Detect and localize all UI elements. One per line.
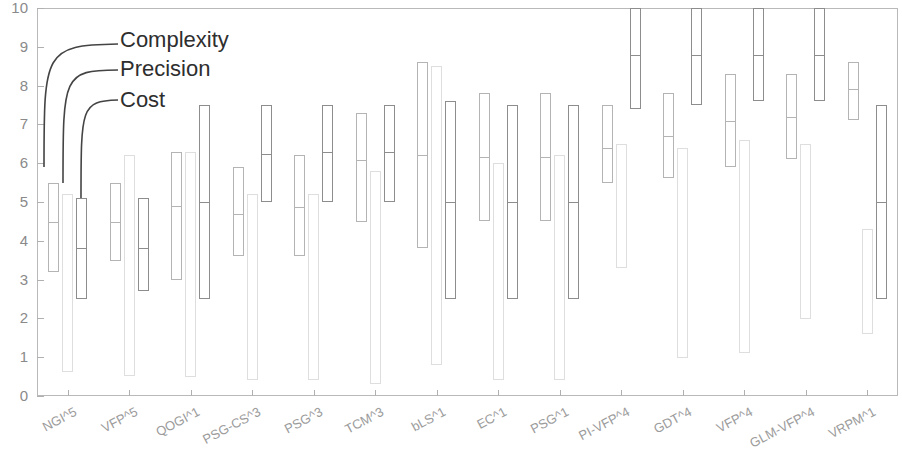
- median-line: [77, 248, 86, 249]
- box-bar: [739, 140, 750, 353]
- median-line: [295, 207, 304, 208]
- x-tick-mark: [867, 390, 868, 396]
- y-tick-label: 1: [2, 349, 28, 364]
- y-tick-mark: [37, 241, 44, 242]
- y-tick-mark: [37, 318, 44, 319]
- median-line: [726, 121, 735, 122]
- box-bar: [479, 93, 490, 221]
- median-line: [139, 248, 148, 249]
- box-bar: [110, 183, 121, 261]
- median-line: [480, 157, 489, 158]
- y-tick-mark: [37, 47, 44, 48]
- box-bar: [725, 74, 736, 167]
- box-bar: [76, 198, 87, 299]
- median-line: [541, 157, 550, 158]
- x-tick-mark: [314, 390, 315, 396]
- y-tick-mark: [37, 163, 44, 164]
- median-line: [234, 214, 243, 215]
- y-tick-label: 6: [2, 155, 28, 170]
- box-bar: [663, 93, 674, 178]
- x-tick-mark: [437, 390, 438, 396]
- median-line: [815, 55, 824, 56]
- median-line: [111, 222, 120, 223]
- box-bar: [384, 105, 395, 202]
- y-tick-mark: [37, 280, 44, 281]
- box-bar: [630, 8, 641, 109]
- legend-label-cost: Cost: [120, 87, 165, 113]
- median-line: [385, 152, 394, 153]
- y-tick-mark: [37, 8, 44, 9]
- y-tick-label: 4: [2, 233, 28, 248]
- median-line: [323, 152, 332, 153]
- box-bar: [568, 105, 579, 299]
- y-tick-label: 7: [2, 116, 28, 131]
- y-tick-label: 5: [2, 194, 28, 209]
- box-bar: [356, 113, 367, 222]
- median-line: [877, 202, 886, 203]
- box-bar: [431, 66, 442, 365]
- median-line: [631, 55, 640, 56]
- median-line: [508, 202, 517, 203]
- y-tick-label: 0: [2, 388, 28, 403]
- x-tick-mark: [744, 390, 745, 396]
- box-bar: [138, 198, 149, 291]
- box-bar: [602, 105, 613, 183]
- x-tick-mark: [806, 390, 807, 396]
- x-tick-mark: [683, 390, 684, 396]
- y-tick-mark: [37, 124, 44, 125]
- box-bar: [507, 105, 518, 299]
- median-line: [664, 136, 673, 137]
- median-line: [787, 117, 796, 118]
- box-bar: [445, 101, 456, 299]
- box-bar: [233, 167, 244, 256]
- chart-container: 012345678910 NGI^5VFP^5QOGI^1PSG-CS^3PSG…: [0, 0, 902, 450]
- x-tick-mark: [375, 390, 376, 396]
- median-line: [49, 222, 58, 223]
- median-line: [418, 155, 427, 156]
- box-bar: [616, 144, 627, 268]
- box-bar: [370, 171, 381, 384]
- box-bar: [862, 229, 873, 334]
- median-line: [603, 148, 612, 149]
- box-bar: [171, 152, 182, 280]
- box-bar: [294, 155, 305, 256]
- y-tick-label: 9: [2, 39, 28, 54]
- box-bar: [48, 183, 59, 272]
- y-tick-label: 10: [2, 0, 28, 15]
- x-tick-mark: [129, 390, 130, 396]
- median-line: [569, 202, 578, 203]
- median-line: [200, 202, 209, 203]
- box-bar: [691, 8, 702, 105]
- x-tick-mark: [252, 390, 253, 396]
- box-bar: [261, 105, 272, 202]
- median-line: [172, 206, 181, 207]
- median-line: [446, 202, 455, 203]
- median-line: [692, 55, 701, 56]
- box-bar: [786, 74, 797, 159]
- box-bar: [814, 8, 825, 101]
- box-bar: [124, 155, 135, 376]
- box-bar: [800, 144, 811, 319]
- x-tick-mark: [560, 390, 561, 396]
- box-bar: [247, 194, 258, 380]
- y-tick-mark: [37, 86, 44, 87]
- median-line: [754, 55, 763, 56]
- box-bar: [185, 152, 196, 377]
- box-bar: [322, 105, 333, 202]
- box-bar: [417, 62, 428, 248]
- box-bar: [540, 93, 551, 221]
- median-line: [849, 89, 858, 90]
- box-bar: [848, 62, 859, 120]
- y-tick-mark: [37, 396, 44, 397]
- box-bar: [199, 105, 210, 299]
- box-bar: [308, 194, 319, 380]
- x-tick-mark: [621, 390, 622, 396]
- legend-label-precision: Precision: [120, 56, 210, 82]
- median-line: [357, 160, 366, 161]
- x-tick-mark: [498, 390, 499, 396]
- box-bar: [62, 194, 73, 372]
- box-bar: [677, 148, 688, 358]
- x-tick-mark: [68, 390, 69, 396]
- y-tick-label: 2: [2, 310, 28, 325]
- box-bar: [876, 105, 887, 299]
